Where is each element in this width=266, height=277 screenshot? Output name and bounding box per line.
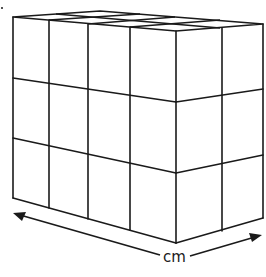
arrow-line-left xyxy=(20,215,160,255)
cuboid-diagram: cm xyxy=(0,0,266,277)
dimension-arrow: cm xyxy=(13,212,262,266)
top-face xyxy=(13,11,263,31)
side-face xyxy=(176,24,263,243)
arrowhead-right-icon xyxy=(249,233,262,242)
front-face xyxy=(13,17,176,243)
arrow-line-right xyxy=(190,237,255,256)
unit-label: cm xyxy=(163,248,186,266)
stray-mark xyxy=(1,7,3,9)
